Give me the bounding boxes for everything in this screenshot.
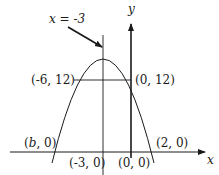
point-label-origin: (0, 0) <box>118 157 150 169</box>
b-label-suffix: , 0) <box>36 136 56 150</box>
point-label-0-12: (0, 12) <box>135 74 175 86</box>
pointer-arrow <box>68 27 102 47</box>
point-label-2-0: (2, 0) <box>156 137 188 149</box>
parabola-diagram: y x x = -3 (-6, 12) (0, 12) (b, 0) (2, 0… <box>0 0 219 175</box>
point-label-neg6-12: (-6, 12) <box>31 74 75 86</box>
y-axis-label: y <box>128 3 135 15</box>
symmetry-line-label: x = -3 <box>49 13 85 25</box>
point-label-b-0: (b, 0) <box>24 137 56 149</box>
x-axis-label: x <box>207 154 214 166</box>
point-label-neg3-0: (-3, 0) <box>69 157 105 169</box>
